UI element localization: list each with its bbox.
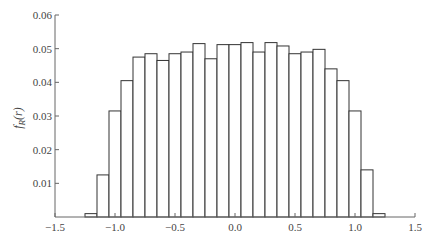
histogram-bar <box>325 69 337 217</box>
y-axis-label: fR(r) <box>11 107 27 129</box>
y-tick-label: 0.05 <box>33 43 53 55</box>
histogram-bar <box>169 54 181 217</box>
histogram-bar <box>313 49 325 217</box>
histogram-bar <box>157 60 169 217</box>
histogram-chart: 0.010.020.030.040.050.06 −1.5−1.0−0.50.0… <box>0 0 433 237</box>
histogram-bar <box>265 43 277 217</box>
x-tick-label: −1.0 <box>105 221 125 233</box>
histogram-bar <box>97 175 109 217</box>
x-tick-label: −1.5 <box>45 221 65 233</box>
histogram-bar <box>181 52 193 217</box>
y-tick-label: 0.01 <box>33 177 52 189</box>
histogram-bar <box>241 43 253 217</box>
histogram-bar <box>121 81 133 217</box>
histogram-bar <box>205 59 217 217</box>
histogram-bar <box>277 46 289 217</box>
x-tick-label: 0.0 <box>228 221 242 233</box>
x-tick-label: 0.5 <box>288 221 302 233</box>
y-tick-label: 0.03 <box>33 110 53 122</box>
histogram-bar <box>361 170 373 217</box>
x-tick-label: 1.0 <box>348 221 362 233</box>
histogram-bar <box>337 81 349 217</box>
histogram-bar <box>301 52 313 217</box>
histogram-bar <box>145 54 157 217</box>
x-tick-label: 1.5 <box>408 221 422 233</box>
y-tick-label: 0.04 <box>33 76 53 88</box>
histogram-bar <box>85 214 97 217</box>
histogram-bar <box>109 111 121 217</box>
histogram-bar <box>289 54 301 217</box>
histogram-bar <box>349 111 361 217</box>
histogram-bar <box>193 44 205 217</box>
y-tick-label: 0.06 <box>33 9 53 21</box>
histogram-bars <box>85 43 385 217</box>
x-tick-label: −0.5 <box>165 221 185 233</box>
histogram-bar <box>253 52 265 217</box>
histogram-bar <box>217 45 229 217</box>
histogram-bar <box>373 214 385 217</box>
histogram-bar <box>133 57 145 217</box>
histogram-bar <box>229 45 241 217</box>
y-tick-label: 0.02 <box>33 144 52 156</box>
